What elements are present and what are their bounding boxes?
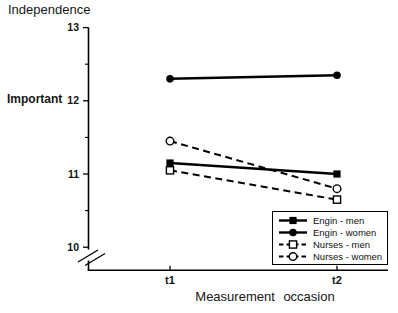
marker-nurses-men-t2 [333, 196, 340, 203]
legend-label-engin-men: Engin - men [313, 215, 364, 226]
marker-engin-women-t1 [166, 75, 174, 83]
legend-sample-engin-men-icon [278, 215, 308, 226]
legend-item-nurses-men: Nurses - men [278, 238, 385, 250]
legend-label-nurses-men: Nurses - men [313, 239, 370, 250]
legend-marker-nurses-men-icon [289, 240, 296, 247]
x-tick-label-t2: t2 [332, 274, 342, 286]
legend-label-engin-women: Engin - women [313, 227, 376, 238]
legend-marker-nurses-women-icon [289, 252, 297, 260]
marker-nurses-women-t2 [333, 185, 341, 193]
marker-engin-men-t1 [166, 159, 173, 166]
marker-engin-women-t2 [333, 71, 341, 79]
legend-item-nurses-women: Nurses - women [278, 250, 385, 262]
legend-sample-nurses-women-icon [278, 251, 308, 262]
legend-marker-engin-women-icon [289, 228, 297, 236]
legend-item-engin-women: Engin - women [278, 226, 385, 238]
y-tick-label-13: 13 [67, 21, 79, 33]
line-chart-figure: Independence Important 13121110t1t2 Engi… [0, 0, 398, 313]
x-tick-label-t1: t1 [165, 274, 175, 286]
series-line-nurses-men [170, 170, 337, 199]
legend-marker-engin-men-icon [289, 216, 296, 223]
legend-sample-engin-women-icon [278, 227, 308, 238]
series-line-engin-women [170, 75, 337, 79]
y-tick-label-11: 11 [68, 168, 79, 180]
marker-nurses-women-t1 [166, 137, 174, 145]
legend-sample-nurses-men-icon [278, 239, 308, 250]
y-tick-label-10: 10 [67, 241, 79, 253]
x-axis-label: Measurement occasion [150, 289, 380, 304]
marker-engin-men-t2 [333, 170, 340, 177]
legend-item-engin-men: Engin - men [278, 214, 385, 226]
marker-nurses-men-t1 [166, 167, 173, 174]
y-tick-label-12: 12 [67, 94, 79, 106]
legend-box: Engin - men Engin - women Nurses - men N… [272, 211, 388, 265]
plot-area: 13121110t1t2 [0, 0, 398, 313]
legend-label-nurses-women: Nurses - women [313, 251, 382, 262]
